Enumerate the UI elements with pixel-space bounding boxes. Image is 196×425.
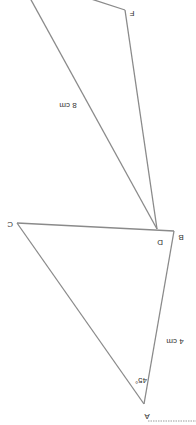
edge-fe <box>88 0 125 10</box>
edge-df <box>125 10 157 229</box>
vertex-label-b: B <box>178 233 183 242</box>
edge-ab <box>144 231 174 404</box>
side-label-ab: 4 cm <box>166 337 184 346</box>
vertex-label-a: A <box>144 412 150 421</box>
geometry-diagram: A B C D F 4 cm 45° 8 cm <box>0 0 196 425</box>
edge-de <box>30 0 157 229</box>
edge-bc <box>17 223 174 231</box>
vertex-label-c: C <box>7 220 13 229</box>
edge-ca <box>17 223 144 404</box>
angle-label-a: 45° <box>135 376 147 385</box>
vertex-label-f: F <box>129 9 134 18</box>
side-label-de: 8 cm <box>59 101 77 110</box>
vertex-label-d: D <box>157 238 163 247</box>
